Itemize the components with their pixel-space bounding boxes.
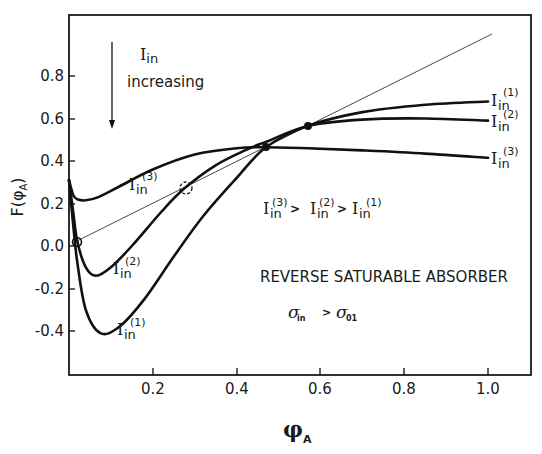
svg-text:A: A — [303, 433, 312, 446]
svg-text:>: > — [337, 202, 347, 216]
svg-text:Iin: Iin — [140, 45, 158, 66]
y-tick-label: 0.4 — [40, 152, 64, 170]
svg-text:I: I — [310, 199, 316, 218]
y-tick-label: -0.2 — [35, 280, 64, 298]
curve-label-right-3: I in (3) — [491, 145, 519, 171]
svg-text:I: I — [129, 175, 135, 194]
svg-text:(1): (1) — [130, 316, 146, 329]
svg-text:(1): (1) — [366, 196, 382, 209]
svg-text:I: I — [491, 149, 497, 168]
svg-text:in: in — [498, 156, 510, 171]
x-axis-label: φ A — [283, 416, 312, 446]
y-axis-label: F(φA) — [8, 177, 29, 216]
svg-text:in: in — [136, 182, 148, 197]
svg-text:I: I — [113, 259, 119, 278]
svg-text:01: 01 — [346, 314, 358, 323]
svg-text:>: > — [322, 306, 331, 319]
svg-text:I: I — [352, 199, 358, 218]
svg-text:(1): (1) — [503, 86, 519, 99]
svg-text:(3): (3) — [272, 196, 288, 209]
svg-text:I: I — [117, 320, 123, 339]
x-ticks — [153, 368, 488, 375]
svg-text:(2): (2) — [125, 255, 141, 268]
svg-text:I: I — [491, 91, 497, 110]
svg-text:(2): (2) — [319, 196, 335, 209]
rsa-label: REVERSE SATURABLE ABSORBER — [260, 268, 508, 286]
intersection-dot — [262, 143, 270, 151]
svg-text:>: > — [290, 202, 300, 216]
svg-text:I: I — [263, 199, 269, 218]
down-arrow-icon — [109, 42, 115, 129]
svg-text:in: in — [120, 266, 132, 281]
svg-text:I: I — [491, 112, 497, 131]
y-tick-label: 0.8 — [40, 67, 64, 85]
svg-text:in: in — [297, 314, 306, 323]
svg-text:φ: φ — [283, 416, 303, 442]
curve-label-left-3: I in (3) — [129, 170, 158, 197]
x-tick-label: 0.8 — [392, 380, 416, 398]
intersection-dot — [304, 122, 312, 130]
x-tick-label: 0.2 — [141, 380, 165, 398]
arrow-annotation: Iin increasing — [127, 45, 204, 91]
diagonal-reference-line — [77, 34, 492, 241]
svg-text:in: in — [498, 119, 510, 134]
y-tick-labels: 0.8 0.6 0.4 0.2 0.0 -0.2 -0.4 — [35, 67, 64, 340]
cross-section-relation: σ in > σ 01 — [288, 302, 358, 323]
svg-text:(3): (3) — [142, 170, 158, 183]
x-tick-label: 1.0 — [476, 380, 500, 398]
x-tick-labels: 0.2 0.4 0.6 0.8 1.0 — [141, 380, 500, 398]
curve-label-right-2: I in (2) — [491, 108, 519, 134]
svg-text:(2): (2) — [503, 108, 519, 121]
curve-label-left-1: I in (1) — [117, 316, 146, 342]
x-tick-label: 0.6 — [308, 380, 332, 398]
svg-text:(3): (3) — [503, 145, 519, 158]
svg-text:in: in — [124, 327, 136, 342]
y-tick-label: 0.0 — [40, 237, 64, 255]
y-tick-label: 0.6 — [40, 110, 64, 128]
intensity-order-annotation: I in (3) > I in (2) > I in (1) — [263, 196, 382, 221]
y-tick-label: 0.2 — [40, 195, 64, 213]
svg-text:increasing: increasing — [127, 73, 204, 91]
y-tick-label: -0.4 — [35, 322, 64, 340]
svg-text:F(φA): F(φA) — [8, 177, 29, 216]
curve-label-left-2: I in (2) — [113, 255, 141, 281]
chart: 0.8 0.6 0.4 0.2 0.0 -0.2 -0.4 0.2 0.4 0.… — [0, 0, 542, 454]
x-tick-label: 0.4 — [225, 380, 249, 398]
